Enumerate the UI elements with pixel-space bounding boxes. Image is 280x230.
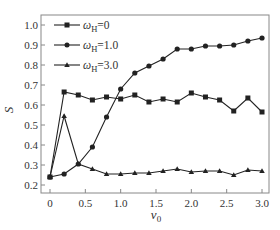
circle-marker-icon — [231, 42, 236, 47]
y-tick-label: 0.5 — [24, 119, 38, 131]
legend-item: ωH=0 — [54, 19, 110, 34]
legend-label: ωH=3.0 — [83, 59, 118, 74]
circle-marker-icon — [203, 43, 208, 48]
square-marker-icon — [217, 98, 222, 103]
legend: ωH=0ωH=1.0ωH=3.0 — [54, 19, 118, 74]
circle-marker-icon — [65, 43, 70, 48]
square-marker-icon — [132, 93, 137, 98]
circle-marker-icon — [189, 46, 194, 51]
square-marker-icon — [203, 95, 208, 100]
circle-marker-icon — [160, 56, 165, 61]
legend-label: ωH=1.0 — [83, 39, 118, 54]
y-tick-label: 0.9 — [24, 39, 38, 51]
circle-marker-icon — [118, 86, 123, 91]
x-tick-label: 3.0 — [255, 197, 269, 209]
y-axis: 0.20.30.40.50.60.70.80.91.0 — [24, 19, 45, 191]
y-tick-label: 0.3 — [24, 159, 38, 171]
x-tick-label: 0 — [47, 197, 53, 209]
y-tick-label: 0.7 — [24, 79, 38, 91]
y-tick-label: 0.6 — [24, 99, 38, 111]
circle-marker-icon — [245, 38, 250, 43]
x-axis: 00.51.01.52.02.53.0 — [47, 189, 269, 209]
legend-label: ωH=0 — [83, 19, 110, 34]
square-marker-icon — [231, 109, 236, 114]
x-tick-label: 2.5 — [220, 197, 234, 209]
circle-marker-icon — [259, 35, 264, 40]
square-marker-icon — [175, 100, 180, 105]
circle-marker-icon — [62, 171, 67, 176]
circle-marker-icon — [104, 114, 109, 119]
y-tick-label: 1.0 — [24, 19, 38, 31]
series-circle — [47, 35, 264, 179]
circle-marker-icon — [132, 70, 137, 75]
square-marker-icon — [62, 90, 67, 95]
legend-item: ωH=3.0 — [54, 59, 118, 74]
line-chart: 0.20.30.40.50.60.70.80.91.0 00.51.01.52.… — [0, 0, 280, 230]
circle-marker-icon — [90, 144, 95, 149]
square-marker-icon — [189, 91, 194, 96]
square-marker-icon — [118, 97, 123, 102]
y-tick-label: 0.2 — [24, 179, 38, 191]
series-line — [50, 38, 262, 177]
y-tick-label: 0.8 — [24, 59, 38, 71]
y-axis-label: S — [1, 106, 16, 113]
x-tick-label: 0.5 — [78, 197, 92, 209]
circle-marker-icon — [146, 63, 151, 68]
square-marker-icon — [65, 23, 70, 28]
series-line — [50, 116, 262, 177]
series-triangle — [47, 113, 265, 179]
x-tick-label: 2.0 — [184, 197, 198, 209]
circle-marker-icon — [217, 43, 222, 48]
square-marker-icon — [260, 110, 265, 115]
legend-item: ωH=1.0 — [54, 39, 118, 54]
series-square — [48, 90, 265, 180]
x-tick-label: 1.0 — [114, 197, 128, 209]
square-marker-icon — [76, 93, 81, 98]
triangle-marker-icon — [174, 166, 180, 171]
square-marker-icon — [104, 95, 109, 100]
series-line — [50, 92, 262, 177]
triangle-marker-icon — [61, 113, 67, 118]
series-layer — [47, 35, 265, 179]
circle-marker-icon — [175, 46, 180, 51]
square-marker-icon — [161, 97, 166, 102]
y-tick-label: 0.4 — [24, 139, 38, 151]
square-marker-icon — [245, 96, 250, 101]
square-marker-icon — [90, 98, 95, 103]
square-marker-icon — [146, 100, 151, 105]
x-axis-label: v0 — [151, 207, 162, 224]
